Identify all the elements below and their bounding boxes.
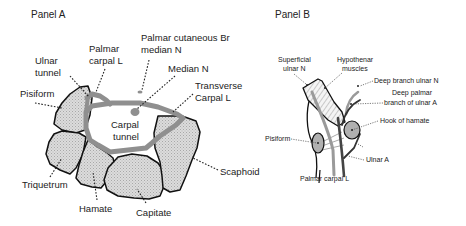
label-pisiform-b: Pisiform bbox=[265, 135, 290, 142]
label-palmar-carpal-1: Palmar bbox=[89, 43, 119, 54]
label-ulnar-a: Ulnar A bbox=[366, 156, 389, 163]
label-ulnar-tunnel-2: tunnel bbox=[35, 67, 61, 78]
label-transverse-1: Transverse bbox=[195, 80, 242, 91]
label-hypothenar-2: muscles bbox=[342, 65, 368, 72]
label-hook-of-hamate: Hook of hamate bbox=[380, 117, 430, 124]
figure: Panel A Palmar cutaneous Br median N Pal… bbox=[0, 0, 466, 226]
label-superficial-1: Superficial bbox=[278, 56, 311, 64]
label-palmar-cutaneous-br: Palmar cutaneous Br bbox=[141, 32, 230, 43]
leader-palmar-carpal bbox=[96, 69, 105, 92]
label-superficial-2: ulnar N bbox=[283, 65, 306, 72]
panel-b-title: Panel B bbox=[275, 9, 310, 20]
anatomy-diagram: Panel A Palmar cutaneous Br median N Pal… bbox=[0, 0, 466, 226]
label-median-n: Median N bbox=[168, 63, 209, 74]
leader-transverse bbox=[173, 94, 193, 112]
panel-b: Panel B Superficial ulnar N Hypothenar m… bbox=[265, 9, 439, 183]
ulnar-artery bbox=[338, 118, 344, 176]
label-triquetrum: Triquetrum bbox=[22, 179, 68, 190]
label-ulnar-tunnel-1: Ulnar bbox=[35, 55, 58, 66]
label-deep-palmar-1: Deep palmar bbox=[392, 89, 433, 97]
palmar-cutaneous-branch bbox=[138, 90, 143, 93]
label-transverse-2: Carpal L bbox=[195, 92, 231, 103]
panel-a-title: Panel A bbox=[31, 9, 66, 20]
label-carpal-tunnel-1: Carpal bbox=[111, 119, 139, 130]
label-palmar-carpal-2: carpal L bbox=[89, 55, 123, 66]
label-carpal-tunnel-2: tunnel bbox=[113, 131, 139, 142]
label-palmar-carpal-l: Palmar carpal L bbox=[300, 175, 349, 183]
leader-pisiform-a bbox=[35, 103, 62, 108]
panel-a: Panel A Palmar cutaneous Br median N Pal… bbox=[20, 9, 260, 218]
label-hypothenar-1: Hypothenar bbox=[337, 56, 374, 64]
label-deep-branch-ulnar-n: Deep branch ulnar N bbox=[374, 77, 439, 85]
label-palmar-cutaneous-median: median N bbox=[141, 44, 182, 55]
label-capitate: Capitate bbox=[136, 207, 171, 218]
label-scaphoid: Scaphoid bbox=[220, 166, 260, 177]
leader-palmar-cutaneous bbox=[142, 60, 149, 90]
label-deep-palmar-2: branch of ulnar A bbox=[384, 99, 437, 106]
label-hamate: Hamate bbox=[79, 203, 112, 214]
median-nerve bbox=[131, 108, 140, 116]
leader-scaphoid bbox=[193, 158, 218, 170]
label-pisiform-a: Pisiform bbox=[20, 88, 54, 99]
